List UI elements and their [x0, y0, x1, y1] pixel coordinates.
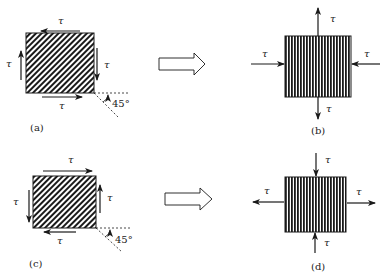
tau-label-top-a: τ — [58, 15, 64, 26]
angle-label-a: 45° — [112, 98, 130, 109]
angle-arc-a — [103, 95, 108, 102]
caption-c: (c) — [29, 258, 43, 269]
angle-label-c: 45° — [115, 234, 133, 245]
tau-label-bottom-d: τ — [324, 237, 330, 248]
tau-label-top-b: τ — [330, 13, 336, 24]
panel-a: τ τ τ τ 45° (a) — [6, 15, 130, 133]
stress-diagram: τ τ τ τ 45° (a) τ τ τ τ (b) — [0, 0, 388, 280]
tau-label-top-d: τ — [325, 154, 331, 165]
tau-label-bottom-c: τ — [57, 235, 63, 246]
stress-element-a — [26, 33, 94, 93]
tau-label-left-b: τ — [262, 48, 268, 59]
transform-arrow-1 — [159, 53, 205, 75]
panel-c: τ τ τ τ 45° (c) — [13, 154, 133, 269]
tau-label-right-d: τ — [356, 186, 362, 197]
tau-label-left-c: τ — [13, 196, 19, 207]
tau-label-right-c: τ — [107, 192, 113, 203]
angle-arc-c — [105, 230, 110, 237]
tau-label-bottom-b: τ — [326, 103, 332, 114]
caption-d: (d) — [311, 261, 325, 272]
tau-label-left-d: τ — [264, 185, 270, 196]
tau-label-top-c: τ — [68, 154, 74, 165]
panel-d: τ τ τ τ (d) — [253, 153, 375, 272]
transform-arrow-2 — [165, 188, 212, 210]
panel-b: τ τ τ τ (b) — [251, 8, 380, 136]
tau-label-right-a: τ — [104, 59, 110, 70]
tau-label-right-b: τ — [364, 48, 370, 59]
tau-label-left-a: τ — [6, 58, 12, 69]
caption-a: (a) — [30, 122, 44, 133]
stress-element-d — [285, 177, 346, 232]
stress-element-b — [285, 36, 351, 97]
caption-b: (b) — [311, 125, 325, 136]
tau-label-bottom-a: τ — [59, 100, 65, 111]
stress-element-c — [33, 176, 96, 228]
